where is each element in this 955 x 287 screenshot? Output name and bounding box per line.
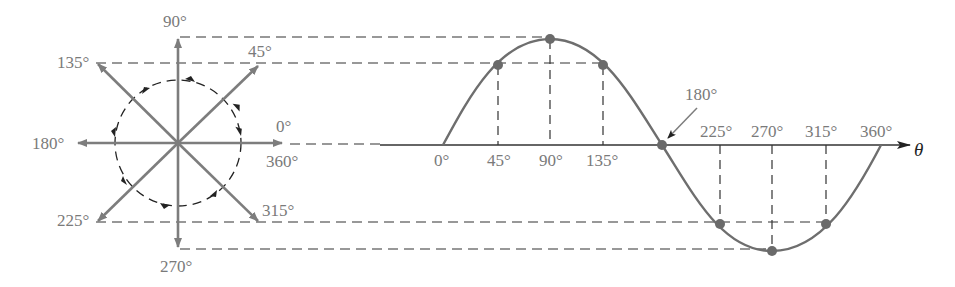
callout-arrow-180: [668, 108, 697, 138]
label-315: 315°: [262, 201, 294, 220]
label-270: 270°: [160, 257, 192, 276]
tick-225: 225°: [700, 122, 732, 141]
label-225: 225°: [57, 211, 89, 230]
axis-label-theta: θ: [914, 139, 923, 160]
label-90: 90°: [163, 12, 187, 31]
tick-45: 45°: [487, 151, 511, 170]
phasor-arrows: [78, 39, 282, 247]
tick-315: 315°: [805, 122, 837, 141]
tick-135: 135°: [586, 151, 618, 170]
label-135: 135°: [57, 53, 89, 72]
label-360: 360°: [266, 152, 298, 171]
callout-180: 180°: [685, 85, 717, 104]
diagram-canvas: 90° 45° 135° 0° 180° 360° 225° 315° 270°…: [0, 0, 955, 287]
label-0: 0°: [276, 117, 291, 136]
label-180: 180°: [32, 134, 64, 153]
label-45: 45°: [248, 42, 272, 61]
tick-90: 90°: [539, 151, 563, 170]
tick-270: 270°: [751, 122, 783, 141]
phasor-225: [98, 143, 178, 221]
tick-360: 360°: [860, 122, 892, 141]
phasor-315: [178, 143, 258, 221]
phasor-sine-diagram: 90° 45° 135° 0° 180° 360° 225° 315° 270°…: [0, 0, 955, 287]
phasor-135: [98, 64, 178, 143]
tick-0: 0°: [434, 151, 449, 170]
